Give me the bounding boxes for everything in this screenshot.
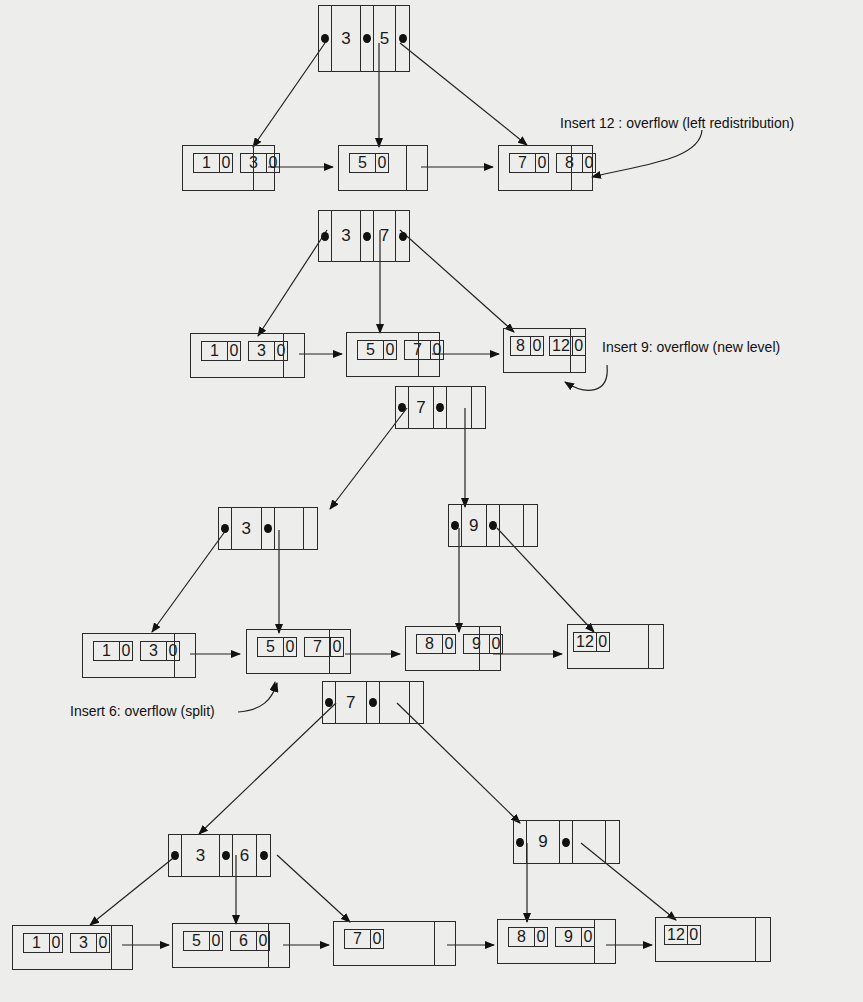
record-pointer: 0 bbox=[376, 154, 388, 172]
next-leaf-pointer bbox=[111, 926, 132, 969]
leaf-entry: 50 bbox=[349, 153, 389, 173]
leaf-entry: 80 bbox=[510, 336, 544, 356]
pointer-icon bbox=[262, 508, 275, 549]
next-leaf-pointer bbox=[268, 924, 289, 967]
pointer-icon bbox=[410, 682, 423, 723]
tree-3-leaf-1: 10 30 bbox=[82, 633, 196, 678]
tree-3-internal-right: 9 bbox=[448, 504, 538, 547]
next-leaf-pointer bbox=[755, 918, 770, 961]
pointer-icon bbox=[560, 821, 573, 863]
leaf-entry: 70 bbox=[509, 153, 549, 173]
leaf-key: 12 bbox=[574, 633, 597, 651]
next-leaf-pointer bbox=[479, 627, 500, 670]
node-key-empty bbox=[573, 821, 606, 863]
tree-1-leaf-1: 10 30 bbox=[182, 145, 275, 191]
next-leaf-pointer bbox=[571, 146, 592, 190]
next-leaf-pointer bbox=[253, 146, 274, 190]
leaf-key: 5 bbox=[358, 341, 384, 359]
record-pointer: 0 bbox=[535, 928, 547, 946]
tree-4-leaf-3: 70 bbox=[333, 921, 456, 966]
leaf-key: 12 bbox=[665, 926, 688, 944]
node-key: 9 bbox=[462, 505, 487, 546]
next-leaf-pointer bbox=[418, 333, 439, 376]
arrow-layer bbox=[0, 0, 863, 1002]
leaf-entry: 50 bbox=[257, 637, 297, 657]
leaf-entry: 50 bbox=[183, 931, 223, 951]
next-leaf-pointer bbox=[283, 334, 304, 377]
pointer-icon bbox=[367, 682, 380, 723]
tree-1-leaf-3: 70 80 bbox=[498, 145, 593, 191]
tree-2-root-node: 3 7 bbox=[318, 210, 410, 262]
leaf-entry: 10 bbox=[93, 641, 133, 661]
record-pointer: 0 bbox=[284, 638, 296, 656]
pointer-icon bbox=[524, 505, 537, 546]
pointer-icon bbox=[487, 505, 500, 546]
node-key: 7 bbox=[374, 211, 396, 261]
leaf-key: 5 bbox=[350, 154, 376, 172]
tree-3-internal-left: 3 bbox=[218, 507, 318, 550]
node-key: 5 bbox=[374, 6, 396, 71]
leaf-entry: 10 bbox=[23, 933, 63, 953]
leaf-entry: 80 bbox=[508, 927, 548, 947]
record-pointer: 0 bbox=[97, 934, 109, 952]
node-key: 6 bbox=[233, 835, 257, 876]
record-pointer: 0 bbox=[582, 928, 594, 946]
record-pointer: 0 bbox=[228, 342, 240, 360]
leaf-key: 5 bbox=[184, 932, 210, 950]
leaf-entry: 10 bbox=[201, 341, 241, 361]
pointer-icon bbox=[319, 6, 332, 71]
tree-2-leaf-2: 50 70 bbox=[346, 332, 440, 377]
leaf-key: 1 bbox=[94, 642, 120, 660]
tree-4-leaf-5: 120 bbox=[655, 917, 771, 962]
node-key: 3 bbox=[332, 211, 361, 261]
next-leaf-pointer bbox=[406, 146, 427, 190]
leaf-key: 8 bbox=[417, 635, 443, 653]
leaf-entry: 120 bbox=[573, 632, 610, 652]
leaf-key: 5 bbox=[258, 638, 284, 656]
leaf-key: 3 bbox=[141, 642, 167, 660]
node-key: 3 bbox=[232, 508, 262, 549]
pointer-icon bbox=[169, 835, 182, 876]
next-leaf-pointer bbox=[174, 634, 195, 677]
tree-1-root-node: 3 5 bbox=[318, 5, 410, 72]
leaf-key: 7 bbox=[510, 154, 536, 172]
leaf-key: 8 bbox=[511, 337, 531, 355]
node-key: 7 bbox=[336, 682, 367, 723]
leaf-entry: 30 bbox=[70, 933, 110, 953]
tree-4-leaf-1: 10 30 bbox=[12, 925, 133, 970]
pointer-icon bbox=[434, 387, 447, 428]
record-pointer: 0 bbox=[120, 642, 132, 660]
leaf-entry: 30 bbox=[248, 341, 288, 361]
leaf-entry: 120 bbox=[664, 925, 701, 945]
tree-4-leaf-2: 50 60 bbox=[172, 923, 290, 968]
leaf-key: 3 bbox=[71, 934, 97, 952]
leaf-entry: 10 bbox=[193, 153, 233, 173]
tree-4-internal-right: 9 bbox=[513, 820, 620, 864]
pointer-icon bbox=[396, 6, 409, 71]
node-key: 3 bbox=[182, 835, 220, 876]
next-leaf-pointer bbox=[648, 625, 663, 668]
pointer-icon bbox=[361, 6, 374, 71]
tree-4-root-node: 7 bbox=[322, 681, 424, 724]
leaf-key: 3 bbox=[249, 342, 275, 360]
leaf-entry: 60 bbox=[230, 931, 270, 951]
pointer-icon bbox=[304, 508, 317, 549]
annotation-insert-6: Insert 6: overflow (split) bbox=[70, 703, 215, 719]
node-key-empty bbox=[447, 387, 472, 428]
next-leaf-pointer bbox=[594, 920, 615, 963]
pointer-icon bbox=[514, 821, 527, 863]
record-pointer: 0 bbox=[536, 154, 548, 172]
record-pointer: 0 bbox=[50, 934, 62, 952]
leaf-key: 1 bbox=[24, 934, 50, 952]
tree-4-internal-left: 3 6 bbox=[168, 834, 271, 877]
pointer-icon bbox=[323, 682, 336, 723]
leaf-key: 1 bbox=[202, 342, 228, 360]
record-pointer: 0 bbox=[443, 635, 455, 653]
record-pointer: 0 bbox=[371, 930, 383, 948]
pointer-icon bbox=[396, 387, 409, 428]
annotation-insert-9: Insert 9: overflow (new level) bbox=[602, 339, 780, 355]
node-key: 9 bbox=[527, 821, 560, 863]
tree-2-leaf-3: 80 120 bbox=[503, 328, 586, 373]
leaf-key: 8 bbox=[509, 928, 535, 946]
record-pointer: 0 bbox=[384, 341, 396, 359]
